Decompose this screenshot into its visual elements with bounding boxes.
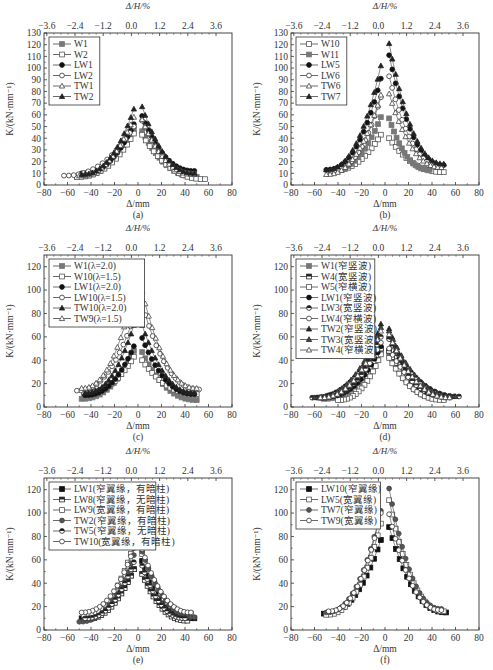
y-tick-label: 80 <box>32 309 42 319</box>
y-tick-label: 100 <box>274 63 289 73</box>
y-tick-label: 0 <box>283 402 288 412</box>
x-tick-label: 60 <box>204 410 214 420</box>
y-tick-label: 20 <box>279 602 289 612</box>
chart-svg-e: Δ/H/%−80−60−40−20020406080−3.6−2.4−1.20.… <box>0 445 246 668</box>
x-tick-label: 40 <box>180 633 190 643</box>
chart-panel-d: Δ/H/%−80−60−40−20020406080−3.6−2.4−1.20.… <box>247 222 493 445</box>
x-tick-label: 20 <box>404 633 414 643</box>
legend: LW1(窄翼缘，有暗柱)LW8(窄翼缘，无暗柱)LW9(宽翼缘，有暗柱)TW2(… <box>49 482 175 550</box>
y-tick-label: 80 <box>279 309 289 319</box>
x-tick-label: −60 <box>307 188 322 198</box>
y-tick-label: 130 <box>27 28 42 38</box>
y-tick-label: 0 <box>283 625 288 635</box>
y-tick-label: 20 <box>279 379 289 389</box>
top-tick-label: 0.0 <box>372 21 384 31</box>
x-tick-label: 40 <box>180 188 190 198</box>
y-tick-label: 40 <box>32 134 42 144</box>
x-axis-label: Δ/mm <box>126 644 150 654</box>
chart-svg-d: Δ/H/%−80−60−40−20020406080−3.6−2.4−1.20.… <box>247 222 493 445</box>
legend-label: LW1 <box>74 60 93 70</box>
y-tick-label: 120 <box>274 40 289 50</box>
y-tick-label: 10 <box>32 169 42 179</box>
chart-panel-f: Δ/H/%−80−60−40−20020406080−3.6−2.4−1.20.… <box>247 445 493 668</box>
x-tick-label: 20 <box>157 410 167 420</box>
y-tick-label: 60 <box>32 555 42 565</box>
x-tick-label: −60 <box>60 633 75 643</box>
legend-label: LW1(窄翼缘，有暗柱) <box>74 483 169 495</box>
y-tick-label: 50 <box>32 122 42 132</box>
legend-label: TW2 <box>74 92 94 102</box>
top-tick-label: 1.2 <box>154 243 166 253</box>
panel-caption: (c) <box>133 432 144 443</box>
chart-svg-c: Δ/H/%−80−60−40−20020406080−3.6−2.4−1.20.… <box>0 222 246 445</box>
x-tick-label: −40 <box>331 188 346 198</box>
top-tick-label: 1.2 <box>154 466 166 476</box>
legend-label: TW7(窄翼缘) <box>321 504 377 516</box>
y-tick-label: 120 <box>27 262 42 272</box>
x-tick-label: 20 <box>404 410 414 420</box>
legend-label: TW2(窄翼缘，有暗柱) <box>74 515 170 527</box>
top-tick-label: 3.6 <box>457 21 469 31</box>
legend-label: LW9(宽翼缘，有暗柱) <box>74 504 169 516</box>
legend: W1(λ=2.0)W10(λ=1.5)LW1(λ=2.0)LW10(λ=1.5)… <box>49 259 145 327</box>
x-tick-label: 0 <box>383 188 388 198</box>
x-tick-label: 20 <box>157 633 167 643</box>
x-tick-label: −20 <box>107 410 122 420</box>
x-axis-label: Δ/mm <box>126 199 150 209</box>
x-tick-label: −40 <box>331 410 346 420</box>
top-tick-label: −2.4 <box>66 243 83 253</box>
legend-label: LW10(窄翼缘) <box>321 483 381 495</box>
top-tick-label: −2.4 <box>313 243 330 253</box>
chart-panel-e: Δ/H/%−80−60−40−20020406080−3.6−2.4−1.20.… <box>0 445 246 668</box>
y-axis-label: K/(kN·mm⁻¹) <box>252 304 263 357</box>
x-tick-label: 60 <box>204 633 214 643</box>
legend-label: TW9(宽翼缘) <box>321 515 377 527</box>
y-tick-label: 60 <box>279 555 289 565</box>
y-tick-label: 40 <box>32 579 42 589</box>
top-tick-label: −1.2 <box>95 21 112 31</box>
legend-label: TW1 <box>74 81 94 91</box>
top-tick-label: 0.0 <box>125 243 137 253</box>
y-axis-label: K/(kN·mm⁻¹) <box>5 82 16 135</box>
y-tick-label: 0 <box>36 402 41 412</box>
legend-label: LW2 <box>74 71 93 81</box>
y-tick-label: 120 <box>27 40 42 50</box>
x-axis-label: Δ/mm <box>126 421 150 431</box>
y-tick-label: 70 <box>32 98 42 108</box>
x-tick-label: −60 <box>307 410 322 420</box>
chart-panel-c: Δ/H/%−80−60−40−20020406080−3.6−2.4−1.20.… <box>0 222 246 445</box>
y-tick-label: 0 <box>283 180 288 190</box>
top-tick-label: 0.0 <box>372 466 384 476</box>
x-tick-label: −60 <box>60 188 75 198</box>
legend-label: LW5(宽翼缘) <box>321 494 376 506</box>
chart-svg-f: Δ/H/%−80−60−40−20020406080−3.6−2.4−1.20.… <box>247 445 493 668</box>
top-tick-label: 2.4 <box>182 21 194 31</box>
y-tick-label: 40 <box>279 356 289 366</box>
top-tick-label: −1.2 <box>95 243 112 253</box>
x-tick-label: −60 <box>60 410 75 420</box>
chart-panel-a: Δ/H/%−80−60−40−20020406080−3.6−2.4−1.20.… <box>0 0 246 223</box>
top-tick-label: 0.0 <box>372 243 384 253</box>
y-tick-label: 20 <box>32 157 42 167</box>
chart-svg-a: Δ/H/%−80−60−40−20020406080−3.6−2.4−1.20.… <box>0 0 246 223</box>
y-tick-label: 80 <box>32 87 42 97</box>
x-tick-label: −40 <box>84 188 99 198</box>
top-tick-label: 2.4 <box>429 243 441 253</box>
y-tick-label: 20 <box>32 602 42 612</box>
top-tick-label: 3.6 <box>457 466 469 476</box>
x-tick-label: 40 <box>427 410 437 420</box>
y-tick-label: 20 <box>279 157 289 167</box>
top-tick-label: −3.6 <box>285 243 302 253</box>
top-tick-label: 2.4 <box>429 466 441 476</box>
y-tick-label: 100 <box>27 285 42 295</box>
x-tick-label: 40 <box>180 410 190 420</box>
top-tick-label: −2.4 <box>66 21 83 31</box>
top-axis-label: Δ/H/% <box>372 446 397 456</box>
y-tick-label: 60 <box>279 332 289 342</box>
y-tick-label: 0 <box>36 180 41 190</box>
top-axis-label: Δ/H/% <box>125 223 150 233</box>
legend-label: W4(宽竖波) <box>321 271 371 283</box>
y-tick-label: 70 <box>279 98 289 108</box>
legend-label: W5(窄横波) <box>321 281 371 293</box>
legend-label: TW10(宽翼缘，有暗柱) <box>74 536 175 548</box>
